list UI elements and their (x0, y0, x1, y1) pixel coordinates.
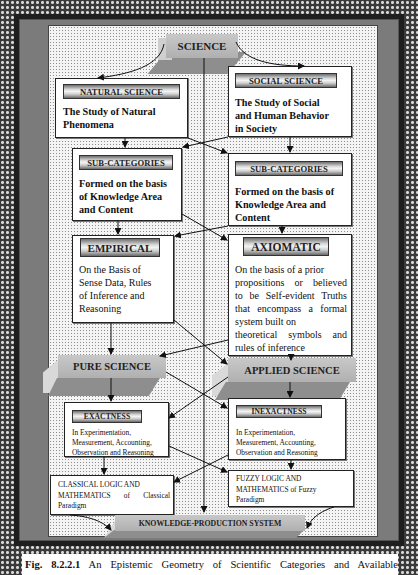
text-line: system built on (235, 315, 347, 328)
text-line: rules of inference (235, 341, 347, 354)
text-line: theoretical symbols and (235, 328, 347, 341)
text-line: Reasoning (79, 302, 175, 315)
text-line: MATHEMATICS of Fuzzy (236, 485, 352, 496)
natural-science-box: NATURAL SCIENCE The Study of Natural Phe… (55, 78, 188, 138)
text-line: Paradigm (236, 495, 352, 506)
social-science-title: SOCIAL SCIENCE (235, 73, 337, 88)
inexactness-description: In Experimentation, Measurement, Account… (236, 428, 346, 458)
text-line: of Inference and (79, 289, 175, 302)
text-line: that encompass a formal (235, 302, 347, 315)
exactness-box: EXACTNESS In Experimentation, Measuremen… (64, 402, 169, 457)
text-line: and Human Behavior (235, 109, 351, 122)
fuzzy-logic-description: FUZZY LOGIC AND MATHEMATICS of Fuzzy Par… (236, 474, 352, 506)
inexactness-title: INEXACTNESS (236, 405, 322, 418)
text-line: of Knowledge Area (79, 190, 181, 203)
text-line: The Study of Natural (63, 105, 185, 118)
text-line: propositions or believed (235, 276, 347, 289)
subcategories-left-box: SUB-CATEGORIES Formed on the basis of Kn… (72, 148, 182, 221)
exactness-title: EXACTNESS (72, 410, 142, 423)
subcategories-left-title: SUB-CATEGORIES (79, 155, 173, 170)
empirical-title: EMPIRICAL (80, 238, 160, 257)
empirical-box: EMPIRICAL On the Basis of Sense Data, Ru… (72, 235, 174, 323)
text-line: Formed on the basis (79, 177, 181, 190)
text-line: Observation and Reasoning (72, 448, 170, 458)
text-line: On the Basis of (79, 263, 175, 276)
text-line: CLASSICAL LOGIC AND (58, 480, 170, 491)
fuzzy-logic-box: FUZZY LOGIC AND MATHEMATICS of Fuzzy Par… (228, 470, 354, 507)
text-line: FUZZY LOGIC AND (236, 474, 352, 485)
pure-science-label: PURE SCIENCE (58, 355, 166, 378)
text-line: In Experimentation, (72, 428, 170, 438)
subcategories-left-description: Formed on the basis of Knowledge Area an… (79, 177, 181, 216)
text-line: and Content (79, 203, 181, 216)
figure-caption: Fig. 8.2.2.1 An Epistemic Geometry of Sc… (22, 554, 398, 575)
text-line: Sense Data, Rules (79, 276, 175, 289)
axiomatic-box: AXIOMATIC On the basis of a prior propos… (228, 234, 352, 356)
classical-logic-box: CLASSICAL LOGIC AND MATHEMATICS of Class… (50, 475, 174, 515)
inexactness-box: INEXACTNESS In Experimentation, Measurem… (228, 398, 346, 460)
text-line: Paradigm (58, 501, 170, 512)
text-line: In Experimentation, (236, 428, 346, 438)
text-line: Formed on the basis of (235, 185, 351, 198)
text-line: Measurement, Accounting, (236, 438, 346, 448)
classical-logic-description: CLASSICAL LOGIC AND MATHEMATICS of Class… (58, 480, 170, 512)
subcategories-right-box: SUB-CATEGORIES Formed on the basis of Kn… (228, 153, 352, 226)
figure-caption-text: An Epistemic Geometry of Scientific Cate… (89, 559, 398, 570)
exactness-description: In Experimentation, Measurement, Account… (72, 428, 170, 458)
slab-front-face (104, 530, 304, 538)
text-line: On the basis of a prior (235, 263, 347, 276)
science-label: SCIENCE (166, 34, 238, 58)
subcategories-right-description: Formed on the basis of Knowledge Area an… (235, 185, 351, 224)
figure-number: Fig. 8.2.2.1 (25, 559, 80, 570)
knowledge-production-label: KNOWLEDGE-PRODUCTION SYSTEM (115, 515, 305, 531)
empirical-description: On the Basis of Sense Data, Rules of Inf… (79, 263, 175, 315)
text-line: to be Self-evident Truths (235, 289, 347, 302)
text-line: The Study of Social (235, 96, 351, 109)
axiomatic-title: AXIOMATIC (243, 237, 329, 256)
social-science-box: SOCIAL SCIENCE The Study of Social and H… (228, 66, 352, 137)
applied-science-label: APPLIED SCIENCE (228, 358, 356, 382)
text-line: Measurement, Accounting, (72, 438, 170, 448)
text-line: MATHEMATICS of Classical (58, 491, 170, 502)
subcategories-right-title: SUB-CATEGORIES (235, 161, 343, 176)
axiomatic-description: On the basis of a prior propositions or … (235, 263, 347, 354)
slab-front-face (48, 378, 160, 396)
text-line: Observation and Reasoning (236, 448, 346, 458)
social-science-description: The Study of Social and Human Behavior i… (235, 96, 351, 135)
text-line: Knowledge Area and (235, 198, 351, 211)
text-line: in Society (235, 122, 351, 135)
natural-science-title: NATURAL SCIENCE (63, 84, 180, 99)
natural-science-description: The Study of Natural Phenomena (63, 105, 185, 131)
text-line: Content (235, 211, 351, 224)
text-line: Phenomena (63, 118, 185, 131)
